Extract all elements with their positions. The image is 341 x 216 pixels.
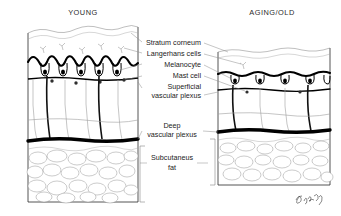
label-deep-plexus-line1: Deep [163,121,180,130]
young-deep-vascular-plexus [28,139,138,142]
label-superficial-plexus-line2: vascular plexus [151,91,201,100]
leader-langerhans-left [124,48,142,53]
aging-melanocytes [233,79,312,84]
young-stratum-corneum-inner [28,32,138,40]
label-melanocyte: Melanocyte [164,60,201,69]
aging-subcutaneous-fat [218,137,333,182]
aging-stratum-corneum-inner [218,54,330,58]
leader-deep-plexus-right [203,131,218,132]
skin-aging-comparison-figure: YOUNG AGING/OLD [0,0,341,216]
panel-aging-old [218,48,333,185]
panel-young [27,26,138,204]
leader-stratum-corneum-right [204,43,228,52]
young-langerhans-cells [40,43,124,54]
leader-stratum-corneum-left [131,33,142,42]
leader-superficial-plexus-right [204,92,218,95]
aging-stratum-corneum-surface [218,48,330,52]
young-dermal-vessels [28,76,138,139]
aging-superficial-vascular-plexus [218,89,330,92]
aging-langerhans-cells [240,62,246,69]
leader-superficial-plexus-left [138,82,142,88]
label-superficial-plexus-line1: Superficial [167,82,201,91]
bracket-fat-aging [210,139,215,185]
young-superficial-vascular-plexus [28,78,138,81]
young-melanocytes [43,69,119,74]
label-langerhans-cells: Langerhans cells [147,49,202,58]
young-subcutaneous-fat [27,146,138,203]
label-subcutaneous-fat-line2: fat [168,163,176,172]
leader-deep-plexus-left [138,131,142,139]
label-deep-plexus-line2: vascular plexus [147,130,197,139]
aging-dermo-epidermal-junction [218,72,330,76]
leader-langerhans-right [204,54,241,64]
artist-signature [296,195,322,206]
panel-title-aging: AGING/OLD [249,8,295,17]
label-subcutaneous-fat-line1: Subcutaneus [151,153,193,162]
leader-mast-cell-left [125,76,142,80]
aging-deep-vascular-plexus [218,130,330,133]
label-mast-cell: Mast cell [173,71,202,80]
aging-dermal-vessels [218,85,330,131]
label-stratum-corneum: Stratum corneum [146,38,201,47]
panel-title-young: YOUNG [68,8,98,17]
bracket-fat-young [140,146,145,202]
young-stratum-corneum-surface [28,26,138,34]
